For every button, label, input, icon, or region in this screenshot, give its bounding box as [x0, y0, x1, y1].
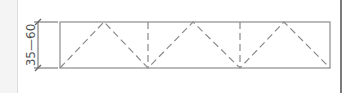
truss-frame [60, 22, 330, 68]
diagonal-members [60, 22, 330, 68]
dashed-verticals [148, 22, 240, 68]
truss-drawing: 35—60 [0, 0, 348, 93]
dimension-label: 35—60 [24, 24, 38, 67]
